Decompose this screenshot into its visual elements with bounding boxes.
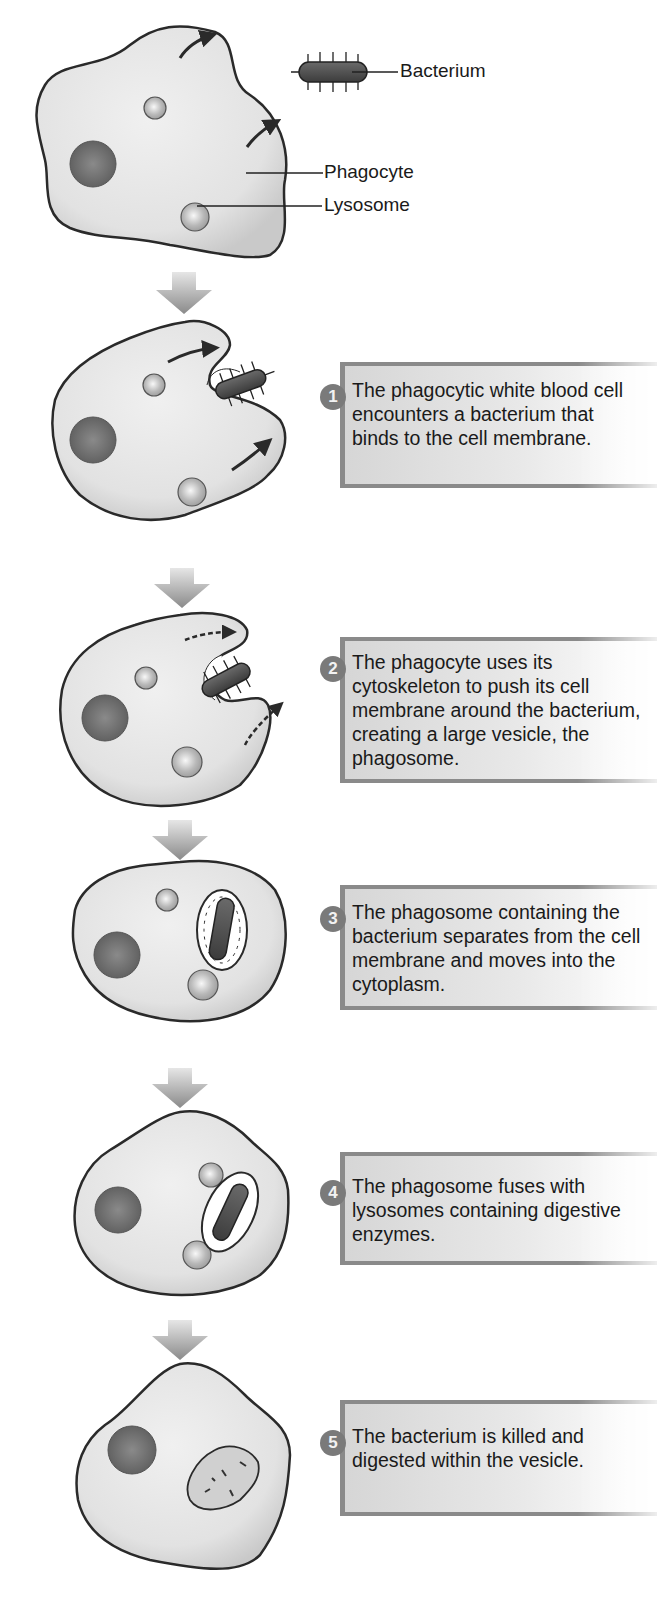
bacterium-label: Bacterium bbox=[400, 60, 486, 82]
step-5-number-badge: 5 bbox=[320, 1430, 346, 1456]
down-arrow-icon bbox=[156, 272, 212, 314]
step-1-text: The phagocytic white blood cell encounte… bbox=[352, 378, 642, 450]
step-2-text: The phagocyte uses its cytoskeleton to p… bbox=[352, 650, 642, 770]
step-3-text: The phagosome containing the bacterium s… bbox=[352, 900, 642, 996]
phagocyte-cell-step-3 bbox=[73, 861, 286, 1021]
step-1-number-badge: 1 bbox=[320, 384, 346, 410]
down-arrow-icon bbox=[154, 568, 210, 608]
phagocyte-cell-step-2 bbox=[60, 613, 280, 806]
lysosome-label: Lysosome bbox=[324, 194, 410, 216]
step-4-number-badge: 4 bbox=[320, 1180, 346, 1206]
phagocytosis-illustration bbox=[0, 0, 657, 1602]
bacterium-icon bbox=[291, 52, 398, 92]
down-arrow-icon bbox=[152, 820, 208, 860]
phagocyte-cell-initial bbox=[36, 26, 286, 257]
step-5-text: The bacterium is killed and digested wit… bbox=[352, 1424, 642, 1472]
step-4-text: The phagosome fuses with lysosomes conta… bbox=[352, 1174, 642, 1246]
down-arrow-icon bbox=[152, 1068, 208, 1108]
step-2-number-badge: 2 bbox=[320, 656, 346, 682]
phagocyte-cell-step-1 bbox=[52, 321, 285, 520]
phagocyte-cell-step-4 bbox=[75, 1111, 289, 1295]
phagocyte-cell-step-5 bbox=[77, 1363, 290, 1568]
down-arrow-icon bbox=[152, 1320, 208, 1360]
step-3-number-badge: 3 bbox=[320, 906, 346, 932]
phagocyte-label: Phagocyte bbox=[324, 161, 414, 183]
